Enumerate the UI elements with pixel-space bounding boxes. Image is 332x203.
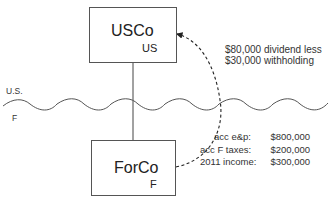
fact-row: 2011 income: $300,000 [200,156,310,169]
fact-row: acc F taxes: $200,000 [200,144,310,157]
fact-label: acc e&p: [214,131,251,144]
forco-jurisdiction: F [150,178,157,190]
fact-label: 2011 income: [200,156,256,169]
distribution-label: $80,000 dividend less $30,000 withholdin… [225,44,322,66]
us-jurisdiction-label: U.S. [6,86,23,96]
forco-name: ForCo [114,159,158,177]
foreign-jurisdiction-label: F [12,113,17,123]
usco-name: USCo [111,22,154,40]
fact-label: acc F taxes: [200,144,251,157]
border-wave [3,99,328,110]
distribution-line-2: $30,000 withholding [225,55,322,66]
fact-row: acc e&p: $800,000 [200,131,310,144]
fact-value: $300,000 [256,156,310,169]
usco-box: USCo US [89,7,177,63]
fact-value: $200,000 [251,144,310,157]
forco-facts: acc e&p: $800,000 acc F taxes: $200,000 … [200,131,310,169]
usco-jurisdiction: US [142,42,157,54]
distribution-line-1: $80,000 dividend less [225,44,322,55]
fact-value: $800,000 [251,131,310,144]
forco-box: ForCo F [91,140,176,196]
